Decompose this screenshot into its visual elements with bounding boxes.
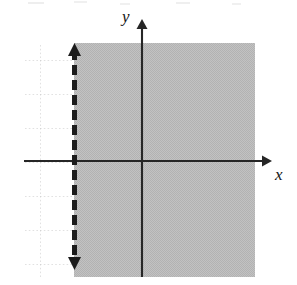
y-axis-label: y (122, 8, 130, 25)
coordinate-plane-svg (0, 0, 297, 285)
x-axis-label: x (275, 166, 283, 183)
scan-artifacts (28, 1, 241, 5)
graph-figure: y x (0, 0, 297, 285)
